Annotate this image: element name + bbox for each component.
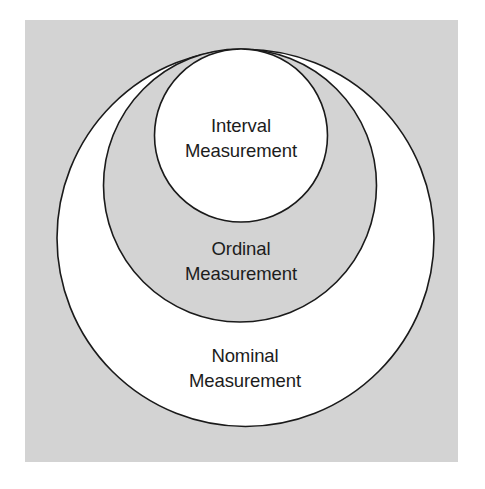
ordinal-label-line-1: Ordinal (212, 238, 271, 259)
interval-label-line-2: Measurement (185, 140, 297, 161)
ordinal-label-line-2: Measurement (185, 263, 297, 284)
nominal-label-line-2: Measurement (189, 370, 301, 391)
measurement-levels-figure: Interval Measurement Ordinal Measurement… (0, 0, 485, 489)
nested-circles-diagram: Interval Measurement Ordinal Measurement… (0, 0, 485, 489)
nominal-label-line-1: Nominal (211, 345, 278, 366)
interval-label-line-1: Interval (211, 115, 271, 136)
